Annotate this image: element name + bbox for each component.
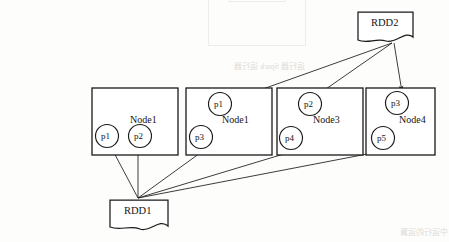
node-label-node3: Node3 [313, 114, 340, 125]
partition-label-n3p4: p4 [285, 133, 294, 143]
arrow-rdd1-to-n3p4 [138, 150, 297, 198]
figure-canvas: 运行器 Spark 运行器 一、在使用就维错 Worker 上的运行 Maste… [0, 0, 449, 242]
node-label-node4: Node4 [399, 114, 426, 125]
rdd-label-rdd1: RDD1 [124, 205, 151, 216]
partition-label-n1p2: p2 [134, 131, 143, 141]
node-label-node1: Node1 [130, 114, 157, 125]
arrow-rdd2-to-n4p3 [394, 43, 402, 92]
arrow-rdd1-to-n1p1 [112, 149, 138, 198]
arrow-rdd1-to-n4p5 [138, 150, 388, 198]
partition-label-n3p2: p2 [304, 99, 313, 109]
partition-label-n2p1: p1 [214, 99, 223, 109]
node-label-node2: Node1 [222, 114, 249, 125]
partition-label-n2p3: p3 [195, 132, 204, 142]
rdd-label-rdd2: RDD2 [371, 17, 398, 28]
partition-label-n1p1: p1 [101, 131, 110, 141]
partition-label-n4p5: p5 [377, 133, 386, 143]
partition-label-n4p3: p3 [391, 98, 400, 108]
